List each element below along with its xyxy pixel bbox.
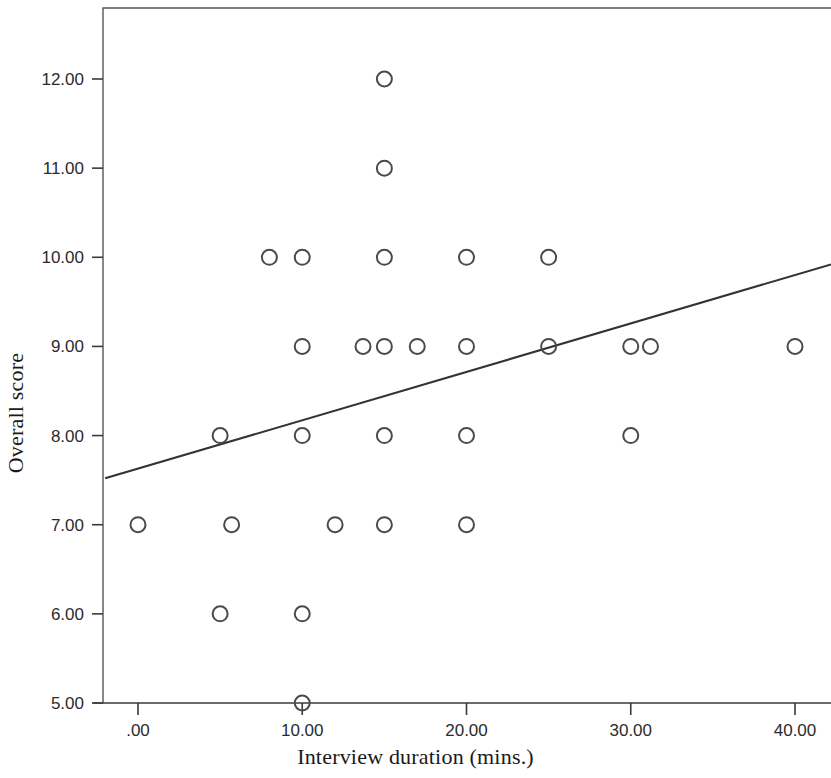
data-point-marker [643,339,658,354]
axis-tick-labels: 5.006.007.008.009.0010.0011.0012.00.0010… [41,70,816,740]
data-point-marker [356,339,371,354]
plot-frame [93,8,831,703]
data-point-marker [377,428,392,443]
x-tick-label: .00 [126,721,150,740]
data-point-marker [295,250,310,265]
data-point-marker [459,250,474,265]
x-axis-title: Interview duration (mins.) [0,744,831,770]
y-tick-label: 8.00 [51,427,84,446]
x-tick-label: 10.00 [281,721,324,740]
data-point-marker [262,250,277,265]
data-point-marker [377,250,392,265]
regression-line [105,264,831,478]
y-tick-label: 11.00 [43,159,84,178]
y-tick-label: 7.00 [51,516,84,535]
y-tick-label: 9.00 [51,337,84,356]
data-point-marker [213,606,228,621]
y-tick-label: 6.00 [51,605,84,624]
x-tick-label: 40.00 [774,721,817,740]
data-point-marker [459,339,474,354]
y-tick-label: 5.00 [51,694,84,713]
data-point-marker [377,72,392,87]
data-points [131,72,803,711]
data-point-marker [131,517,146,532]
data-point-marker [377,517,392,532]
x-tick-label: 30.00 [609,721,652,740]
data-point-marker [213,428,228,443]
data-point-marker [377,339,392,354]
data-point-marker [788,339,803,354]
data-point-marker [295,428,310,443]
fit-line-segment [105,264,831,478]
plot-canvas: 5.006.007.008.009.0010.0011.0012.00.0010… [0,0,831,778]
y-tick-label: 12.00 [41,70,84,89]
data-point-marker [224,517,239,532]
plot-border [103,8,831,703]
data-point-marker [328,517,343,532]
scatter-plot-figure: 5.006.007.008.009.0010.0011.0012.00.0010… [0,0,831,778]
data-point-marker [623,428,638,443]
data-point-marker [295,339,310,354]
data-point-marker [295,606,310,621]
data-point-marker [459,517,474,532]
data-point-marker [623,339,638,354]
data-point-marker [377,161,392,176]
x-tick-label: 20.00 [445,721,488,740]
data-point-marker [410,339,425,354]
y-axis-title: Overall score [3,313,29,513]
y-tick-label: 10.00 [41,248,84,267]
axis-ticks [92,79,795,715]
data-point-marker [459,428,474,443]
data-point-marker [541,250,556,265]
